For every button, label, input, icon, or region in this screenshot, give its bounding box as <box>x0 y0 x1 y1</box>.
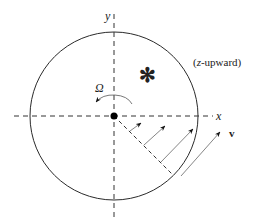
y-axis-label: y <box>104 9 111 23</box>
omega-label: Ω <box>95 81 104 95</box>
velocity-label: v <box>229 127 235 139</box>
radial-line <box>114 116 173 175</box>
velocity-arrow-2 <box>144 126 165 145</box>
velocity-arrow-3 <box>161 129 193 162</box>
velocity-arrow-1 <box>130 123 141 131</box>
center-point <box>111 113 118 120</box>
velocity-arrow-4 <box>181 132 220 176</box>
orientation-note: (z-upward) <box>193 56 242 69</box>
x-axis-label: x <box>215 109 222 123</box>
velocity-arrows <box>130 123 220 176</box>
star-marker: ✻ <box>139 64 156 86</box>
rotating-disk-diagram: y x Ω v ✻ (z-upward) <box>0 0 270 224</box>
